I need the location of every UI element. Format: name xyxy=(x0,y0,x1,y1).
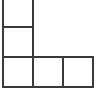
grid-cell xyxy=(2,26,34,58)
grid-cell xyxy=(2,0,34,28)
grid-cell xyxy=(32,56,64,88)
grid-cell xyxy=(62,56,94,88)
grid-cell xyxy=(2,56,34,88)
figure-canvas xyxy=(0,0,96,94)
